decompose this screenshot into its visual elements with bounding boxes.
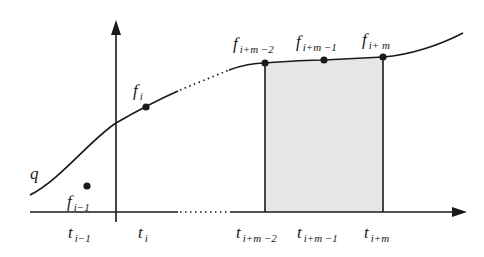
shaded-region (265, 57, 383, 212)
data-point-4 (379, 53, 386, 60)
curve-q (30, 33, 463, 195)
integral-area (265, 57, 383, 212)
knot-label-1: ti (138, 223, 148, 244)
data-point-0 (83, 182, 90, 189)
knot-label-3: ti+m −1 (297, 223, 338, 244)
point-label-3: fi+m −1 (296, 32, 337, 53)
data-point-3 (320, 56, 327, 63)
vertical-axis-arrow-icon (111, 20, 121, 35)
horizontal-axis-arrow-icon (452, 207, 467, 217)
curve-solid-left (30, 91, 178, 195)
curve-dotted (180, 70, 229, 90)
curve-label: q (30, 164, 39, 183)
point-label-2: fi+m −2 (233, 34, 274, 55)
knot-label-0: ti−1 (68, 223, 91, 244)
data-point-1 (142, 103, 149, 110)
knot-label-2: ti+m −2 (236, 223, 277, 244)
point-label-0: fi−1 (67, 192, 90, 213)
data-point-2 (261, 59, 268, 66)
knot-label-4: ti+m (364, 223, 389, 244)
spline-integral-diagram: qfi−1fifi+m −2fi+m −1fi+ mti−1titi+m −2t… (0, 0, 484, 257)
point-label-4: fi+ m (362, 30, 390, 51)
point-label-1: fi (133, 81, 143, 102)
